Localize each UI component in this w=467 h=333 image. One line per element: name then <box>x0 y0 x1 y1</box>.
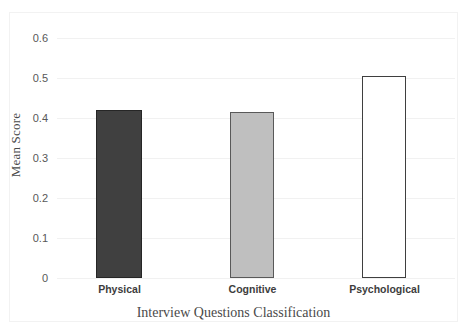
x-axis-tick-labels: Physical Cognitive Psychological <box>57 283 455 301</box>
plot-area <box>57 38 455 278</box>
x-tick-label-physical: Physical <box>57 283 182 295</box>
y-tick-label: 0 <box>42 273 48 284</box>
y-tick-label: 0.6 <box>33 33 48 44</box>
y-tick-label: 0.1 <box>33 233 48 244</box>
y-axis-tick-labels: 0.6 0.5 0.4 0.3 0.2 0.1 0 <box>0 38 48 278</box>
y-tick-label: 0.5 <box>33 73 48 84</box>
x-tick-label-psychological: Psychological <box>322 283 447 295</box>
bars-layer <box>57 38 455 278</box>
bar-chart-figure: Mean Score 0.6 0.5 0.4 0.3 0.2 0.1 0 Phy… <box>0 0 467 333</box>
y-tick-label: 0.4 <box>33 113 48 124</box>
x-tick-label-cognitive: Cognitive <box>190 283 315 295</box>
bar-psychological <box>362 76 406 278</box>
y-tick-label: 0.3 <box>33 153 48 164</box>
y-tick-label: 0.2 <box>33 193 48 204</box>
bar-cognitive <box>230 112 274 278</box>
x-axis-title: Interview Questions Classification <box>0 305 467 321</box>
gridline-0 <box>57 278 455 279</box>
bar-physical <box>96 110 142 278</box>
